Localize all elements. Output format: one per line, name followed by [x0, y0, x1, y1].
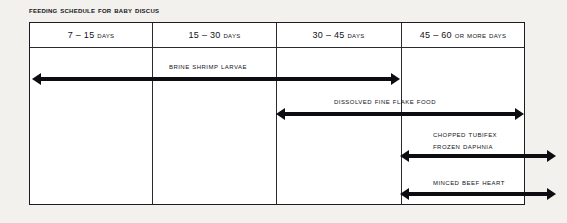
label-chopped-tubifex: Chopped tubifex [433, 130, 497, 139]
arrow-shaft [39, 77, 393, 80]
arrow-brine-shrimp-larvae [32, 73, 400, 85]
arrow-head-right-icon [547, 150, 556, 162]
column-header-7-15-days: 7 – 15 days [30, 23, 152, 48]
page-title: Feeding Schedule for Baby Discus [29, 5, 159, 15]
column-divider-1 [152, 23, 153, 204]
column-header-30-45-days: 30 – 45 days [277, 23, 400, 48]
arrow-minced-beef-heart [400, 188, 556, 200]
arrow-head-right-icon [391, 73, 400, 85]
column-header-15-30-days: 15 – 30 days [153, 23, 276, 48]
arrow-head-right-icon [515, 108, 524, 120]
column-header-45-60-days: 45 – 60 or more days [401, 23, 525, 48]
arrow-shaft [407, 192, 549, 195]
arrow-dissolved-fine-flake-food [276, 108, 524, 120]
arrow-head-right-icon [547, 188, 556, 200]
table-header-row: 7 – 15 days 15 – 30 days 30 – 45 days 45… [30, 23, 524, 48]
arrow-shaft [407, 154, 549, 157]
label-dissolved-fine-flake-food: Dissolved fine flake food [334, 97, 436, 106]
label-minced-beef-heart: Minced beef heart [433, 178, 505, 187]
arrow-frozen-daphnia [400, 150, 556, 162]
arrow-shaft [283, 112, 517, 115]
label-brine-shrimp-larvae: Brine shrimp larvae [169, 62, 247, 71]
